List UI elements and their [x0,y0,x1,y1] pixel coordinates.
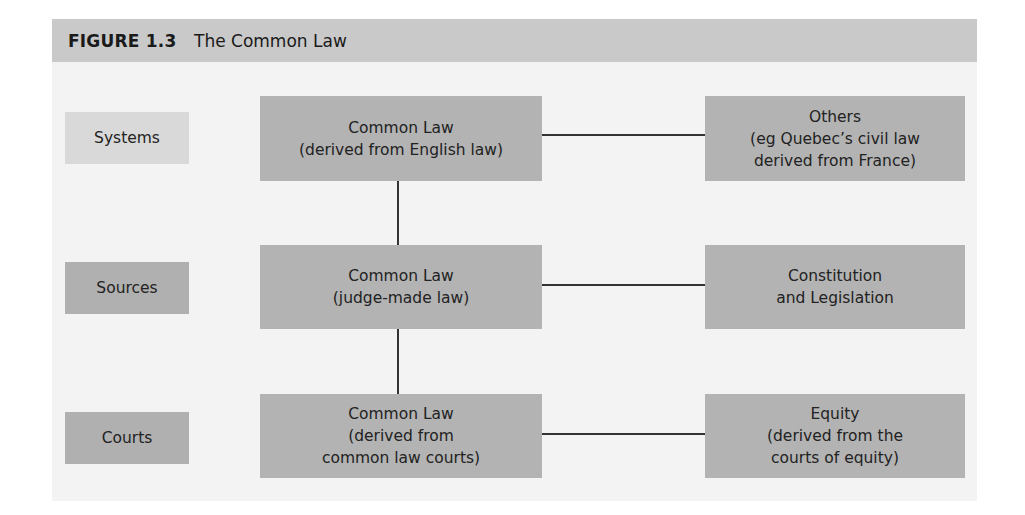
node-equity: Equity (derived from the courts of equit… [705,394,965,478]
connector-sources-constitution [542,284,705,286]
figure-number: FIGURE 1.3 [68,31,194,51]
row-label-courts: Courts [65,412,189,464]
connector-sources-courts [397,329,399,394]
node-common-law-system: Common Law (derived from English law) [260,96,542,181]
node-common-law-courts: Common Law (derived from common law cour… [260,394,542,478]
node-others: Others (eg Quebec’s civil law derived fr… [705,96,965,181]
figure-header: FIGURE 1.3 The Common Law [52,19,977,62]
node-common-law-source: Common Law (judge-made law) [260,245,542,329]
row-label-sources: Sources [65,262,189,314]
figure-title: The Common Law [194,31,347,51]
row-label-systems: Systems [65,112,189,164]
connector-systems-others [542,134,705,136]
connector-systems-sources [397,181,399,245]
node-constitution-legislation: Constitution and Legislation [705,245,965,329]
connector-courts-equity [542,433,705,435]
